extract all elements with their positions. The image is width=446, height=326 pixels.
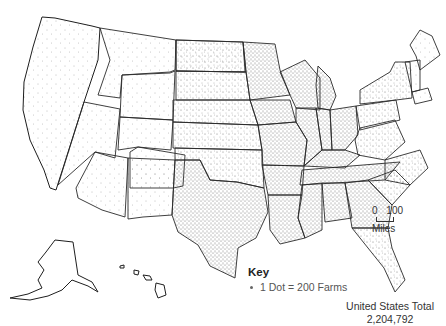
dot-icon (250, 286, 253, 289)
key-entry-label: 1 Dot = 200 Farms (260, 281, 347, 293)
scale-start: 0 (372, 205, 378, 216)
key-entry: 1 Dot = 200 Farms (248, 281, 347, 293)
alaska (10, 240, 98, 300)
key-title: Key (248, 266, 347, 278)
scale-bar-line (376, 217, 394, 222)
central-eastern-states (172, 30, 440, 292)
us-farms-dot-map (0, 0, 446, 326)
us-total: United States Total 2,204,792 (346, 300, 434, 326)
total-value: 2,204,792 (346, 313, 434, 326)
total-label: United States Total (346, 300, 434, 313)
scale-bar: 0 100 Miles (372, 205, 403, 234)
map-key: Key 1 Dot = 200 Farms (248, 266, 347, 293)
scale-end: 100 (386, 205, 403, 216)
hawaii (120, 265, 166, 298)
scale-unit: Miles (372, 223, 403, 234)
